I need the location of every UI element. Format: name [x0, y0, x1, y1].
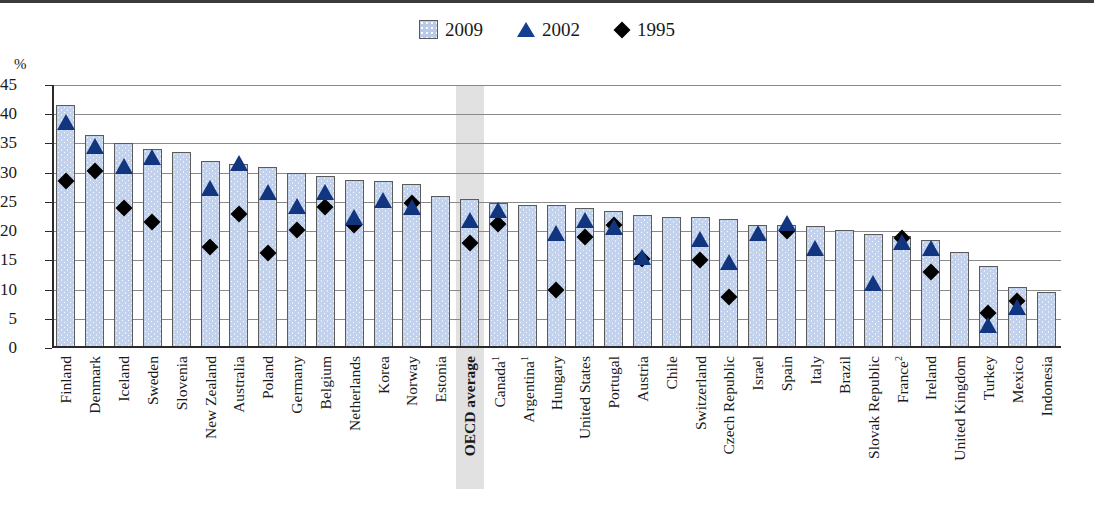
- y-tick-mark-15: [45, 260, 52, 261]
- marker-2002[interactable]: [403, 199, 421, 215]
- bar-column[interactable]: [169, 85, 195, 348]
- bar-column[interactable]: [832, 85, 858, 348]
- marker-2002[interactable]: [605, 219, 623, 235]
- marker-2002[interactable]: [461, 212, 479, 228]
- marker-2002[interactable]: [576, 212, 594, 228]
- bar-column[interactable]: [82, 85, 108, 348]
- y-tick-label-5: 5: [0, 310, 17, 327]
- bar-column[interactable]: [544, 85, 570, 348]
- marker-2002[interactable]: [115, 158, 133, 174]
- marker-2002[interactable]: [288, 198, 306, 214]
- bar-2009[interactable]: [518, 205, 537, 348]
- x-axis-label-text: Hungary: [549, 356, 565, 410]
- bar-2009[interactable]: [662, 217, 681, 349]
- bar-column[interactable]: [53, 85, 79, 348]
- y-tick-mark-5: [45, 319, 52, 320]
- bar-column[interactable]: [486, 85, 512, 348]
- bar-column[interactable]: [745, 85, 771, 348]
- bar-column[interactable]: [1034, 85, 1060, 348]
- bar-2009[interactable]: [748, 225, 767, 348]
- bar-2009[interactable]: [921, 240, 940, 348]
- y-tick-label-30: 30: [0, 164, 17, 181]
- x-axis-label: Germany: [284, 352, 310, 512]
- marker-2002[interactable]: [691, 231, 709, 247]
- bar-2009[interactable]: [892, 236, 911, 348]
- bar-2009[interactable]: [229, 164, 248, 348]
- bar-2009[interactable]: [835, 230, 854, 348]
- x-axis-label: Israel: [745, 352, 771, 512]
- bar-2009[interactable]: [719, 219, 738, 348]
- bar-column[interactable]: [861, 85, 887, 348]
- bar-2009[interactable]: [864, 234, 883, 348]
- bar-2009[interactable]: [1037, 292, 1056, 348]
- marker-2002[interactable]: [778, 215, 796, 231]
- bar-column[interactable]: [716, 85, 742, 348]
- bar-column[interactable]: [601, 85, 627, 348]
- marker-2002[interactable]: [86, 138, 104, 154]
- marker-2002[interactable]: [57, 114, 75, 130]
- bar-2009[interactable]: [172, 152, 191, 348]
- x-axis-label-text: Chile: [664, 356, 680, 390]
- bar-2009[interactable]: [56, 105, 75, 348]
- bar-column[interactable]: [918, 85, 944, 348]
- marker-2002[interactable]: [230, 155, 248, 171]
- x-axis-label-text: Sweden: [145, 356, 161, 405]
- y-tick-label-0: 0: [0, 339, 17, 356]
- marker-2002[interactable]: [979, 317, 997, 333]
- bar-column[interactable]: [255, 85, 281, 348]
- bar-column[interactable]: [111, 85, 137, 348]
- bar-column[interactable]: [198, 85, 224, 348]
- marker-2002[interactable]: [806, 240, 824, 256]
- bar-column[interactable]: [1005, 85, 1031, 348]
- marker-2002[interactable]: [489, 202, 507, 218]
- x-axis-label: Argentina1: [515, 352, 541, 512]
- bar-series-group: [52, 85, 1061, 348]
- bar-column[interactable]: [659, 85, 685, 348]
- marker-2002[interactable]: [201, 180, 219, 196]
- bar-column[interactable]: [457, 85, 483, 348]
- bar-column[interactable]: [428, 85, 454, 348]
- x-axis-label: Turkey: [976, 352, 1002, 512]
- bar-column[interactable]: [399, 85, 425, 348]
- bar-column[interactable]: [226, 85, 252, 348]
- x-axis-label-text: Turkey: [981, 356, 997, 400]
- bar-column[interactable]: [630, 85, 656, 348]
- bar-column[interactable]: [976, 85, 1002, 348]
- marker-2002[interactable]: [864, 275, 882, 291]
- bar-2009[interactable]: [633, 215, 652, 348]
- marker-2002[interactable]: [633, 249, 651, 265]
- bar-column[interactable]: [313, 85, 339, 348]
- bar-2009[interactable]: [345, 180, 364, 348]
- marker-2002[interactable]: [374, 192, 392, 208]
- marker-2002[interactable]: [316, 184, 334, 200]
- bar-column[interactable]: [803, 85, 829, 348]
- marker-2002[interactable]: [1008, 299, 1026, 315]
- bar-2009[interactable]: [143, 149, 162, 348]
- marker-2002[interactable]: [259, 184, 277, 200]
- bar-column[interactable]: [284, 85, 310, 348]
- x-axis-label-text: Italy: [808, 356, 824, 384]
- bar-column[interactable]: [947, 85, 973, 348]
- marker-2002[interactable]: [345, 209, 363, 225]
- bar-2009[interactable]: [431, 196, 450, 348]
- bar-column[interactable]: [140, 85, 166, 348]
- bar-2009[interactable]: [950, 252, 969, 348]
- marker-2002[interactable]: [893, 234, 911, 250]
- marker-2002[interactable]: [547, 225, 565, 241]
- marker-2002[interactable]: [143, 149, 161, 165]
- marker-2002[interactable]: [720, 254, 738, 270]
- y-axis-unit-label: %: [14, 56, 27, 73]
- bar-column[interactable]: [342, 85, 368, 348]
- marker-2002[interactable]: [749, 225, 767, 241]
- bar-column[interactable]: [889, 85, 915, 348]
- bar-column[interactable]: [572, 85, 598, 348]
- bar-2009[interactable]: [114, 143, 133, 348]
- bar-column[interactable]: [774, 85, 800, 348]
- legend-label-2009: 2009: [445, 20, 483, 39]
- x-axis-label-text: Israel: [751, 356, 767, 390]
- marker-2002[interactable]: [922, 240, 940, 256]
- bar-2009[interactable]: [777, 225, 796, 348]
- bar-column[interactable]: [688, 85, 714, 348]
- bar-column[interactable]: [515, 85, 541, 348]
- bar-column[interactable]: [371, 85, 397, 348]
